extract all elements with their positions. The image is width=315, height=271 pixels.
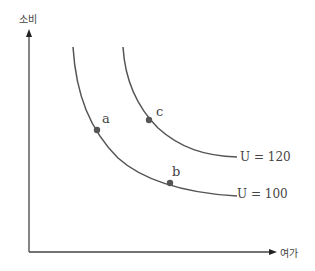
axes: [26, 29, 277, 255]
curve-u100-label: U = 100: [237, 187, 288, 201]
curve-u120: [123, 47, 237, 157]
curve-u100: [73, 47, 237, 196]
point-b-label: b: [172, 164, 180, 179]
x-axis-arrow-icon: [269, 249, 277, 255]
y-axis-label: 소비: [19, 11, 37, 26]
point-c: [146, 117, 152, 123]
point-a-label: a: [102, 111, 110, 126]
x-axis-label: 여가: [280, 245, 298, 260]
point-a: [94, 127, 100, 133]
point-c-label: c: [156, 104, 163, 119]
y-axis-arrow-icon: [26, 29, 32, 37]
curve-u120-label: U = 120: [240, 150, 291, 164]
point-b: [167, 180, 173, 186]
diagram-canvas: [0, 0, 315, 271]
